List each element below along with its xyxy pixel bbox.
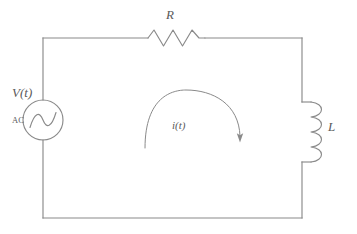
circuit-diagram: R L V(t) AC i(t) — [0, 0, 357, 234]
current-direction-arc — [145, 90, 240, 148]
ac-source-sine-icon — [30, 113, 56, 128]
circuit-schematic-canvas — [0, 0, 357, 234]
resistor-symbol — [148, 30, 205, 46]
resistor-label: R — [166, 8, 174, 21]
source-voltage-label: V(t) — [12, 86, 32, 99]
current-label: i(t) — [172, 120, 185, 131]
source-type-label: AC — [12, 116, 24, 125]
inductor-label: L — [328, 120, 335, 133]
inductor-symbol — [311, 102, 322, 162]
